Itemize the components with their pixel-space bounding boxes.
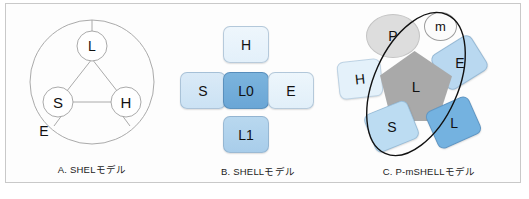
shell-box-label-e: E xyxy=(286,83,295,99)
shell-box-s: S xyxy=(180,72,226,109)
pmshell-label-p: P xyxy=(388,28,397,44)
shell-box-label-s: S xyxy=(198,83,207,99)
pmshell-label-h: H xyxy=(354,71,366,88)
shell-box-label-l1: L1 xyxy=(238,127,254,143)
shell-box-h: H xyxy=(223,26,269,63)
panel-shell-model: H S L0 E L1 B. SHELLモデル xyxy=(178,4,338,182)
shell-box-e: E xyxy=(268,72,314,109)
pmshell-label-l-outer: L xyxy=(450,115,458,131)
shel-node-label-s: S xyxy=(53,94,63,111)
shel-environment-label-e: E xyxy=(39,123,48,139)
panel-p-mshell-model: P H E L S L m C. P-mSHELLモデル xyxy=(338,4,520,182)
shell-box-label-l0: L0 xyxy=(238,83,254,99)
pmshell-shape-p: P xyxy=(366,14,420,58)
shel-node-label-l: L xyxy=(88,38,96,54)
panel-shel-model: L S H E A. SHELモデル xyxy=(6,4,178,182)
pmshell-label-m: m xyxy=(435,19,446,34)
pmshell-label-e: E xyxy=(455,55,464,71)
shel-model-diagram: L S H E xyxy=(6,4,178,159)
pmshell-shape-m: m xyxy=(424,12,457,41)
shel-node-label-h: H xyxy=(121,94,132,111)
panel-b-caption: B. SHELLモデル xyxy=(178,164,338,178)
figure-frame: L S H E A. SHELモデル H S L0 E L1 B. SHELLモ… xyxy=(5,3,521,183)
pmshell-label-l-core: L xyxy=(412,78,420,95)
panel-a-caption: A. SHELモデル xyxy=(6,162,178,176)
shell-box-l0: L0 xyxy=(223,72,269,109)
shell-box-l1: L1 xyxy=(223,116,269,153)
pmshell-shape-h: H xyxy=(336,58,384,100)
shell-box-label-h: H xyxy=(241,37,251,53)
panel-c-caption: C. P-mSHELLモデル xyxy=(338,164,520,178)
pmshell-label-s: S xyxy=(387,119,396,135)
